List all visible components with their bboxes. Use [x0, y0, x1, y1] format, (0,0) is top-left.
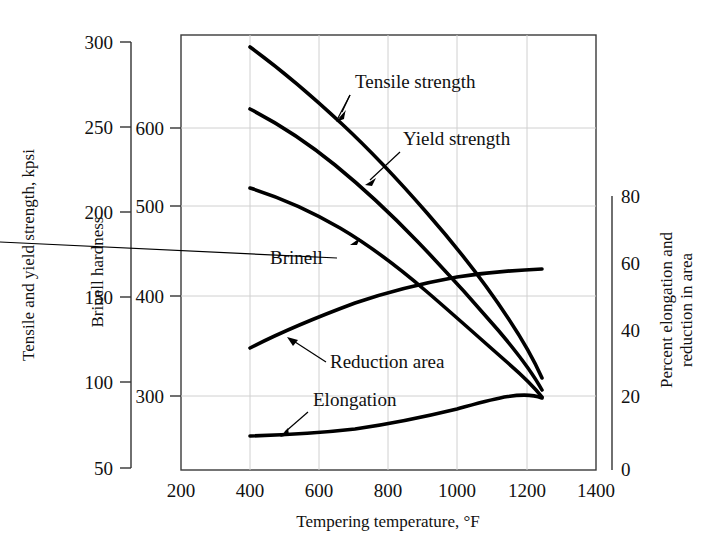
label-tensile-strength: Tensile strength: [355, 71, 476, 92]
annotation-brinell: Brinell: [0, 238, 360, 268]
left-outer-tick-50: 50: [94, 458, 113, 479]
label-elongation: Elongation: [313, 389, 397, 410]
right-axis-title-line2: reduction in area: [677, 252, 696, 367]
brinell-tick-600: 600: [136, 118, 165, 139]
brinell-axis-title: Brinell hardness: [88, 217, 107, 328]
x-tick-200: 200: [167, 480, 196, 501]
right-tick-40: 40: [621, 320, 640, 341]
series-curves: [250, 47, 542, 436]
x-axis: 200 400 600 800 1000 1200 1400 Tempering…: [167, 480, 615, 531]
right-tick-80: 80: [621, 186, 640, 207]
label-yield-strength: Yield strength: [403, 128, 511, 149]
curve-reduction-area: [250, 269, 542, 348]
x-tick-1400: 1400: [577, 480, 615, 501]
right-tick-20: 20: [621, 386, 640, 407]
steel-tempering-chart: 300 250 200 150 100 50 Tensile and yield…: [0, 0, 708, 546]
right-axis: 80 60 40 20 0 Percent elongation and red…: [612, 186, 696, 480]
brinell-tick-300: 300: [136, 386, 165, 407]
left-outer-axis: 300 250 200 150 100 50 Tensile and yield…: [19, 32, 131, 479]
annotation-tensile: Tensile strength: [336, 71, 476, 122]
x-tick-400: 400: [236, 480, 265, 501]
brinell-tick-400: 400: [136, 286, 165, 307]
brinell-tick-500: 500: [136, 196, 165, 217]
left-outer-tick-300: 300: [85, 32, 114, 53]
left-inner-axis: 600 500 400 300 Brinell hardness: [88, 118, 181, 407]
left-outer-axis-title: Tensile and yield strength, kpsi: [19, 149, 38, 361]
x-axis-title: Tempering temperature, °F: [296, 512, 480, 531]
x-tick-600: 600: [305, 480, 334, 501]
label-reduction-area: Reduction area: [330, 351, 445, 372]
right-tick-60: 60: [621, 253, 640, 274]
x-tick-1200: 1200: [508, 480, 546, 501]
x-tick-800: 800: [374, 480, 403, 501]
right-tick-0: 0: [621, 459, 631, 480]
chart-container: 300 250 200 150 100 50 Tensile and yield…: [0, 0, 708, 546]
annotation-reduction: Reduction area: [287, 337, 445, 372]
right-axis-title-line1: Percent elongation and: [657, 232, 676, 388]
left-outer-tick-250: 250: [85, 117, 114, 138]
x-tick-1000: 1000: [438, 480, 476, 501]
annotation-yield: Yield strength: [365, 128, 511, 186]
left-outer-tick-100: 100: [85, 372, 114, 393]
